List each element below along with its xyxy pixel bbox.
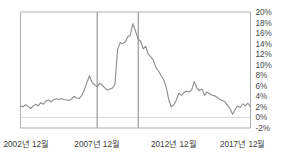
- x-tick-label: 2012년 12월: [151, 139, 197, 149]
- y-tick-label: 12%: [256, 50, 272, 59]
- y-tick-label: 8%: [256, 71, 268, 80]
- y-tick-label: 10%: [256, 61, 272, 70]
- x-tick-label: 2002년 12월: [4, 139, 50, 149]
- x-tick-label: 2017년 12월: [220, 139, 266, 149]
- y-tick-label: 14%: [256, 40, 272, 49]
- y-tick-label: 20%: [256, 8, 272, 17]
- y-tick-label: 2%: [256, 103, 268, 112]
- y-tick-label: 18%: [256, 19, 272, 28]
- y-tick-label: 6%: [256, 82, 268, 91]
- y-tick-label: 16%: [256, 29, 272, 38]
- y-tick-label: -2%: [256, 124, 271, 133]
- x-tick-label: 2007년 12월: [74, 139, 120, 149]
- line-chart: 20%18%16%14%12%10%8%6%4%2%0%-2% 2002년 12…: [0, 0, 286, 161]
- chart-screenshot: 20%18%16%14%12%10%8%6%4%2%0%-2% 2002년 12…: [0, 0, 286, 161]
- y-tick-label: 0%: [256, 113, 268, 122]
- chart-background: [0, 0, 286, 161]
- y-tick-label: 4%: [256, 92, 268, 101]
